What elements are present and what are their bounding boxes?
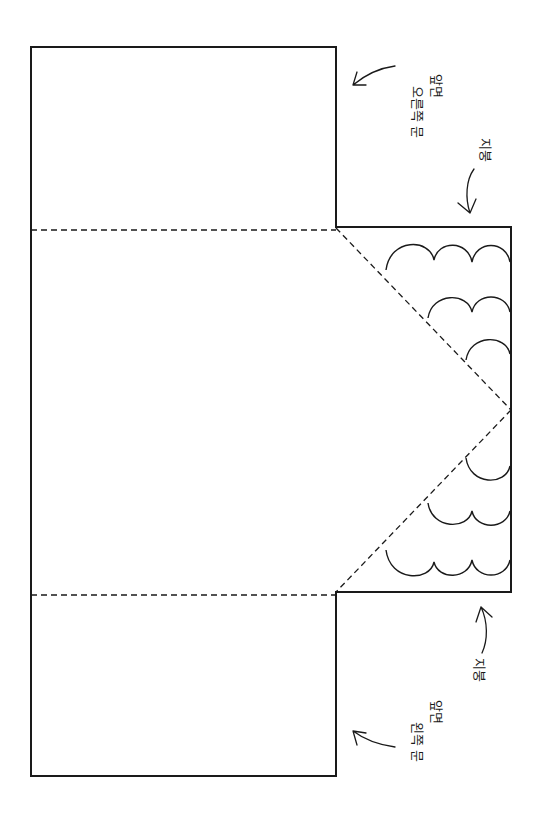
- scallop-row: [428, 297, 510, 318]
- roof-scallops-top: [386, 245, 510, 360]
- scallop-row: [466, 340, 510, 360]
- roof-fold-diagonal-upper: [336, 228, 511, 410]
- arrow-to-roof-bottom: [476, 607, 492, 653]
- roof-fold-diagonal-lower: [336, 410, 511, 592]
- arrow-to-right-door: [353, 66, 395, 85]
- label-bottom-door-front: 앞면: [429, 700, 444, 724]
- scallop-row: [386, 245, 510, 270]
- scallop-row: [386, 550, 510, 576]
- cut-outline: [31, 47, 511, 776]
- label-top-door-front: 앞면: [429, 74, 444, 98]
- house-template-diagram: 앞면 오른쪽 문 지붕 지붕 앞면 왼쪽 문: [0, 0, 539, 820]
- arrow-to-roof-top: [458, 169, 476, 213]
- scallop-row: [428, 503, 510, 525]
- arrow-to-left-door: [353, 731, 395, 747]
- label-bottom-door-name: 왼쪽 문: [410, 722, 425, 762]
- label-top-door-name: 오른쪽 문: [410, 86, 425, 138]
- label-top-roof: 지붕: [478, 138, 493, 162]
- scallop-row: [466, 458, 510, 480]
- label-bottom-roof: 지붕: [472, 658, 487, 682]
